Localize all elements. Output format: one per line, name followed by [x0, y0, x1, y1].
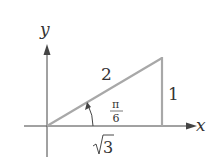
y-axis-arrow-icon — [44, 44, 51, 55]
angle-arc — [88, 105, 93, 126]
adjacent-label: 3 — [103, 138, 113, 157]
opposite-label: 1 — [168, 84, 179, 104]
angle-denominator: 6 — [113, 112, 120, 125]
y-axis-label: y — [39, 19, 50, 39]
angle-numerator: π — [112, 98, 119, 111]
x-axis-label: x — [196, 115, 206, 135]
triangle-diagram: y x 2 1 π 6 3 — [0, 0, 211, 157]
hypotenuse-label: 2 — [101, 64, 112, 84]
